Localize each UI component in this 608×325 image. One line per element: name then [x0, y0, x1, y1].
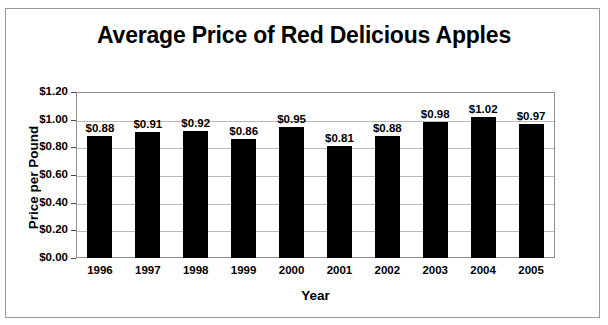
- bar-slot: $0.91: [135, 92, 160, 258]
- bar-slot: $0.92: [183, 92, 208, 258]
- x-axis-tick-label: 1998: [172, 264, 220, 276]
- x-axis-tick-label: 2004: [459, 264, 507, 276]
- bar: [519, 124, 544, 258]
- bar-slot: $0.97: [519, 92, 544, 258]
- bar-value-label: $0.86: [229, 125, 258, 137]
- bar: [279, 127, 304, 258]
- y-axis-tick-label: $0.00: [6, 251, 68, 263]
- y-axis-tick-label: $0.60: [6, 168, 68, 180]
- x-axis-tick-label: 1999: [220, 264, 268, 276]
- bar-value-label: $0.97: [517, 110, 546, 122]
- bar-slot: $0.88: [375, 92, 400, 258]
- bar: [423, 122, 448, 258]
- y-axis-tick-label: $1.20: [6, 85, 68, 97]
- bar: [375, 136, 400, 258]
- x-axis-tick-label: 2001: [316, 264, 364, 276]
- y-axis-tick-mark: [71, 258, 76, 259]
- bar: [183, 131, 208, 258]
- chart-title: Average Price of Red Delicious Apples: [0, 22, 608, 49]
- bar-value-label: $0.95: [277, 113, 306, 125]
- y-axis-tick-label: $1.00: [6, 113, 68, 125]
- bar-value-label: $1.02: [469, 103, 498, 115]
- bar-value-label: $0.98: [421, 108, 450, 120]
- y-axis-tick-label: $0.20: [6, 223, 68, 235]
- x-axis-tick-label: 1997: [124, 264, 172, 276]
- bar-slot: $0.81: [327, 92, 352, 258]
- x-axis-tick-label: 2000: [268, 264, 316, 276]
- x-axis-tick-label: 1996: [76, 264, 124, 276]
- bar-slot: $0.88: [87, 92, 112, 258]
- bar-slot: $0.95: [279, 92, 304, 258]
- bar-slot: $0.86: [231, 92, 256, 258]
- y-axis-tick-label: $0.80: [6, 140, 68, 152]
- bar-value-label: $0.92: [181, 117, 210, 129]
- bar: [231, 139, 256, 258]
- bar: [87, 136, 112, 258]
- x-axis-tick-label: 2005: [507, 264, 555, 276]
- x-axis-tick-label: 2002: [363, 264, 411, 276]
- bars-group: $0.88$0.91$0.92$0.86$0.95$0.81$0.88$0.98…: [76, 92, 555, 258]
- bar: [327, 146, 352, 258]
- bar-slot: $0.98: [423, 92, 448, 258]
- x-axis-tick-label: 2003: [411, 264, 459, 276]
- bar-value-label: $0.91: [133, 118, 162, 130]
- y-axis-tick-label: $0.40: [6, 196, 68, 208]
- bar-slot: $1.02: [471, 92, 496, 258]
- bar: [471, 117, 496, 258]
- bar: [135, 132, 160, 258]
- bar-value-label: $0.81: [325, 132, 354, 144]
- bar-value-label: $0.88: [86, 122, 115, 134]
- x-axis-title: Year: [76, 288, 555, 303]
- bar-value-label: $0.88: [373, 122, 402, 134]
- chart-screenshot: Average Price of Red Delicious Apples Pr…: [0, 0, 608, 325]
